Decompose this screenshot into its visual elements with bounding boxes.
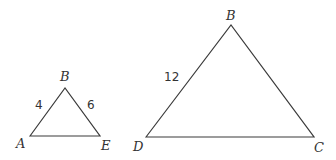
vertex-label-small-right: E [100,138,111,153]
vertex-label-small-left: A [15,136,25,151]
diagram-canvas: B A E 4 6 B D C 12 [0,0,336,160]
side-label-be: 6 [87,98,95,112]
side-label-ab: 4 [35,98,43,112]
vertex-label-large-top: B [225,8,236,23]
small-triangle: B A E 4 6 [15,69,111,153]
large-triangle: B D C 12 [132,8,324,155]
vertex-label-large-left: D [132,139,144,154]
small-triangle-outline [30,88,100,136]
vertex-label-small-top: B [59,69,70,84]
side-label-db: 12 [164,70,179,84]
vertex-label-large-right: C [314,140,324,155]
